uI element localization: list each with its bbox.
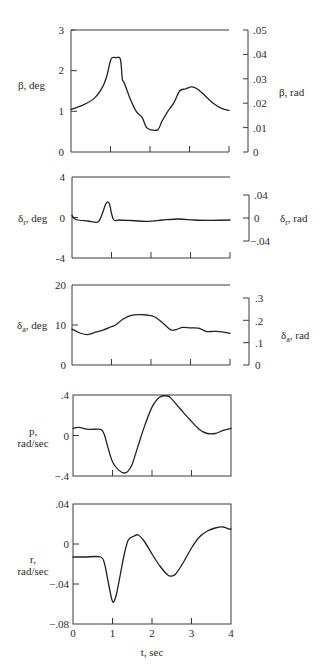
p-ylabel-unit: rad/sec: [17, 437, 48, 449]
delta-a-tick-0: 0: [61, 359, 67, 371]
delta-a-rtick-2: .2: [255, 315, 263, 327]
r-y-ticks: [73, 544, 79, 584]
r-tick-004: .04: [55, 498, 69, 510]
delta-a-tick-10: 10: [55, 319, 67, 331]
delta-r-rtick-neg: −.04: [250, 235, 270, 247]
r-panel: .04 0 −.04 −.08 r, rad/sec 0 1 2 3 4 t, …: [17, 498, 234, 658]
beta-frame: [71, 30, 229, 152]
r-ylabel-unit: rad/sec: [17, 565, 48, 577]
beta-ylabel-right: β, rad: [279, 86, 305, 98]
beta-rtick-1: .01: [253, 122, 267, 134]
beta-right-axis: [243, 30, 248, 152]
delta-a-rtick-0: 0: [255, 359, 261, 371]
beta-ylabel: β, deg: [18, 79, 45, 91]
delta-r-tick-neg4: -4: [56, 252, 66, 264]
p-tick-0: 0: [64, 430, 70, 442]
beta-x-ticks: [111, 146, 230, 152]
delta-a-rtick-3: .3: [255, 292, 264, 304]
x-axis-label: t, sec: [141, 646, 164, 658]
delta-a-rtick-1: .1: [255, 337, 263, 349]
delta-a-tick-20: 20: [55, 279, 67, 291]
p-curve: [73, 396, 231, 473]
r-tick-neg004: −.04: [49, 578, 69, 590]
beta-y-ticks: [71, 30, 77, 111]
beta-curve: [71, 57, 229, 130]
delta-a-curve: [72, 315, 230, 335]
beta-rtick-5: .05: [253, 24, 267, 36]
p-panel: .4 0 −.4 p, rad/sec: [17, 389, 231, 482]
delta-a-frame: [72, 285, 230, 365]
delta-a-panel: 0 10 20 δa, deg .3 .2 .1 0 δa, rad: [17, 279, 310, 371]
p-ylabel-name: p,: [29, 425, 38, 437]
beta-tick-3: 3: [59, 24, 65, 36]
r-frame: [73, 504, 231, 624]
beta-tick-1: 1: [59, 105, 65, 117]
delta-a-ylabel-right: δa, rad: [281, 329, 310, 344]
beta-rtick-3: .03: [253, 73, 267, 85]
r-curve: [73, 527, 231, 602]
delta-r-panel: -4 0 4 δr, deg .04 0 −.04 δr, rad: [18, 171, 308, 264]
delta-r-rtick-pos: .04: [254, 189, 268, 201]
x-tick-4: 4: [228, 627, 234, 639]
beta-tick-2: 2: [59, 64, 65, 76]
p-tick-neg: −.4: [55, 470, 70, 482]
beta-rtick-0: 0: [253, 146, 259, 158]
delta-a-x-ticks: [112, 359, 231, 365]
delta-r-ylabel-right: δr, rad: [280, 212, 308, 227]
beta-panel: 0 1 2 3 β, deg 0 .01 .02 .03 .04 .05 β, …: [18, 24, 305, 158]
x-tick-0: 0: [70, 627, 76, 639]
r-tick-0: 0: [64, 538, 70, 550]
delta-r-tick-0: 0: [60, 212, 66, 224]
delta-r-x-ticks: [112, 252, 231, 258]
figure: 0 1 2 3 β, deg 0 .01 .02 .03 .04 .05 β, …: [0, 0, 322, 668]
delta-a-ylabel: δa, deg: [17, 319, 48, 334]
delta-r-tick-4: 4: [60, 171, 66, 183]
delta-a-right-axis: [243, 298, 249, 365]
p-tick-pos: .4: [61, 389, 70, 401]
beta-tick-0: 0: [59, 146, 65, 158]
r-ylabel-name: r,: [30, 553, 36, 565]
r-x-ticks: [113, 618, 192, 624]
beta-rtick-2: .02: [253, 97, 267, 109]
delta-r-frame: [72, 177, 230, 258]
x-tick-1: 1: [110, 627, 116, 639]
x-tick-3: 3: [189, 627, 195, 639]
delta-r-ylabel: δr, deg: [18, 212, 48, 227]
r-tick-neg008: −.08: [49, 618, 69, 630]
delta-r-right-axis: [243, 195, 249, 241]
delta-r-curve: [72, 202, 230, 223]
delta-r-rtick-0: 0: [254, 212, 260, 224]
beta-rtick-4: .04: [253, 48, 267, 60]
x-tick-2: 2: [149, 627, 155, 639]
